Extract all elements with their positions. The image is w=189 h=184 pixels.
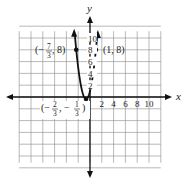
svg-text:(−: (−: [41, 102, 50, 114]
svg-text:3: 3: [53, 109, 57, 118]
chart-figure: 246810246810 x y (− 7 3 , 8) (1, 8) (− 2…: [0, 0, 189, 184]
svg-text:7: 7: [47, 42, 51, 51]
data-point-marker: [84, 97, 89, 102]
svg-text:10: 10: [88, 34, 98, 44]
svg-text:2: 2: [100, 99, 105, 109]
svg-text:, −: , −: [59, 102, 70, 113]
data-point-marker: [74, 48, 79, 53]
svg-text:2: 2: [88, 81, 93, 91]
svg-text:3: 3: [47, 51, 51, 60]
annotation-vertex: (− 2 3 , − 1 3 ): [40, 100, 90, 119]
svg-text:4: 4: [111, 99, 116, 109]
x-axis-label: x: [175, 90, 181, 102]
svg-text:6: 6: [123, 99, 128, 109]
svg-text:6: 6: [88, 57, 93, 67]
svg-text:2: 2: [53, 100, 57, 109]
svg-text:(−: (−: [35, 44, 44, 56]
svg-text:4: 4: [88, 69, 93, 79]
svg-text:10: 10: [145, 99, 155, 109]
annotation-right-point: (1, 8): [103, 44, 125, 56]
parabola-plot: 246810246810 x y (− 7 3 , 8) (1, 8) (− 2…: [0, 0, 189, 184]
svg-text:8: 8: [135, 99, 140, 109]
annotation-left-point: (− 7 3 , 8): [35, 42, 65, 60]
svg-text:8: 8: [88, 45, 93, 55]
svg-text:1: 1: [75, 100, 79, 109]
svg-text:): ): [82, 102, 85, 114]
y-axis-label: y: [86, 2, 92, 14]
svg-text:, 8): , 8): [52, 44, 65, 56]
svg-text:3: 3: [75, 109, 79, 118]
